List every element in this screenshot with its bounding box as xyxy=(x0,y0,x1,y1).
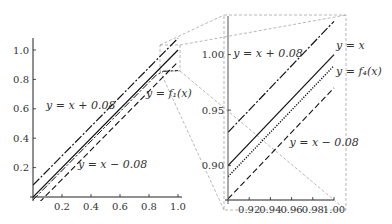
series-annotation: y = x − 0.08 xyxy=(77,158,147,171)
y-tick-label: 0.2 xyxy=(13,162,29,173)
series-annotation: y = x − 0.08 xyxy=(288,136,358,149)
x-tick-label: 0.8 xyxy=(141,201,157,212)
series-group xyxy=(33,38,178,209)
y-tick-label: 1.00 xyxy=(202,49,224,60)
x-tick-label: 0.2 xyxy=(54,201,70,212)
x-tick-label: 1.0 xyxy=(170,201,186,212)
series-annotation: y = f₁(x) xyxy=(145,87,192,100)
series-line-2 xyxy=(228,66,334,177)
series-line-1 xyxy=(33,50,178,197)
zoom-inset-plot: 0.920.940.960.981.000.900.951.00y = x + … xyxy=(202,16,382,215)
y-tick-label: 0.95 xyxy=(202,105,224,116)
x-tick-label: 0.92 xyxy=(238,204,260,215)
main-plot: 0.20.40.60.81.00.20.40.60.81.0y = x + 0.… xyxy=(13,38,192,212)
series-annotation: y = x xyxy=(335,39,365,52)
y-tick-label: 0.90 xyxy=(202,160,224,171)
y-tick-label: 0.8 xyxy=(13,74,29,85)
series-annotation: y = x + 0.08 xyxy=(232,47,302,60)
x-tick-label: 0.98 xyxy=(302,204,324,215)
zoom-connectors xyxy=(160,15,346,210)
connector-top-left xyxy=(160,15,224,45)
chart-figure: 0.20.40.60.81.00.20.40.60.81.0y = x + 0.… xyxy=(0,0,392,224)
x-tick-label: 0.6 xyxy=(112,201,128,212)
series-line-0 xyxy=(228,21,334,132)
series-annotation: y = x + 0.08 xyxy=(45,99,115,112)
y-tick-label: 0.4 xyxy=(13,133,29,144)
x-tick-label: 0.4 xyxy=(83,201,99,212)
zoom-inset-frame xyxy=(224,15,346,210)
y-tick-label: 0.6 xyxy=(13,103,29,114)
series-line-1 xyxy=(228,55,334,166)
connector-top-right xyxy=(180,15,346,45)
x-tick-label: 1.00 xyxy=(323,204,345,215)
x-tick-label: 0.94 xyxy=(259,204,281,215)
series-annotation: y = f₄(x) xyxy=(335,65,382,78)
y-tick-label: 1.0 xyxy=(13,45,29,56)
x-tick-label: 0.96 xyxy=(280,204,302,215)
series-line-3 xyxy=(33,62,178,209)
